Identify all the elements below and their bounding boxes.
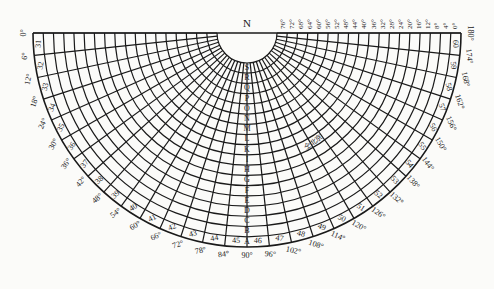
- outer-angle-label: 78°: [194, 245, 207, 256]
- outer-angle-label: 150°: [433, 135, 448, 153]
- top-angle-label: 28°: [388, 19, 396, 29]
- outer-angle-label: 18°: [28, 95, 40, 108]
- outer-angle-label: 72°: [171, 238, 184, 250]
- outer-angle-label: 126°: [370, 205, 388, 221]
- top-angle-label: 0°: [451, 23, 459, 30]
- top-angle-label: 40°: [360, 19, 368, 29]
- ring-letter: B: [244, 226, 249, 235]
- top-angle-label: 68°: [297, 19, 305, 29]
- ring-letter: E: [245, 196, 250, 205]
- outer-angle-label: 180°: [466, 25, 475, 40]
- outer-angle-label: 48°: [90, 191, 104, 205]
- grid-labels: 3132333435363738394041424344454647484950…: [19, 19, 475, 260]
- outer-angle-label: 120°: [350, 218, 368, 233]
- outer-angle-label: 0°: [19, 29, 28, 36]
- ring-letter: A: [244, 237, 250, 246]
- sector-number: 45: [232, 236, 240, 245]
- outer-angle-label: 36°: [59, 157, 73, 171]
- sector-number: 59: [448, 61, 458, 70]
- ring-letter: I: [246, 155, 249, 164]
- sector-number: 47: [275, 233, 284, 243]
- top-angle-label: 36°: [370, 19, 378, 29]
- polar-grid-canvas: 3132333435363738394041424344454647484950…: [0, 0, 494, 289]
- ring-letter: S: [245, 63, 249, 72]
- outer-angle-label: 6°: [20, 52, 30, 60]
- ring-letter: G: [244, 175, 250, 184]
- outer-angle-label: 132°: [388, 190, 405, 207]
- top-angle-label: 12°: [424, 19, 432, 29]
- outer-angle-label: 108°: [307, 238, 324, 251]
- outer-angle-label: 12°: [23, 73, 34, 86]
- sector-number: 32: [35, 61, 45, 70]
- top-angle-label: 60°: [315, 19, 323, 29]
- sector-number: 44: [210, 233, 219, 243]
- outer-angle-label: 174°: [464, 48, 475, 64]
- ring-letter: K: [244, 145, 250, 154]
- ring-letter: Q: [244, 83, 250, 92]
- outer-angle-label: 162°: [453, 93, 466, 110]
- top-angle-label: 16°: [415, 19, 423, 29]
- ring-letter: L: [245, 134, 250, 143]
- ring-letter: N: [244, 114, 250, 123]
- sector-number: 46: [254, 236, 262, 245]
- outer-angle-label: 54°: [108, 206, 122, 220]
- polar-grid-diagram: 3132333435363738394041424344454647484950…: [0, 0, 494, 289]
- top-angle-label: 64°: [306, 19, 314, 29]
- sector-number: 31: [34, 40, 43, 48]
- top-angle-label: 4°: [442, 23, 450, 30]
- north-label: N: [243, 17, 251, 29]
- top-angle-label: 52°: [333, 19, 341, 29]
- ring-letter: H: [244, 165, 250, 174]
- outer-angle-label: 114°: [329, 229, 346, 243]
- outer-angle-label: 60°: [128, 219, 142, 232]
- ring-letter: P: [245, 94, 250, 103]
- ring-arc: [217, 33, 277, 63]
- outer-angle-label: 102°: [285, 244, 302, 256]
- outer-angle-label: 96°: [264, 249, 276, 259]
- top-angle-label: 48°: [342, 19, 350, 29]
- ring-letter: O: [244, 104, 250, 113]
- top-angle-label: 76°: [279, 19, 287, 29]
- ring-letter: M: [243, 124, 250, 133]
- top-angle-label: 44°: [351, 19, 359, 29]
- top-angle-label: 8°: [433, 23, 441, 30]
- outer-angle-label: 144°: [420, 155, 436, 173]
- sector-number: 49: [317, 221, 328, 232]
- ring-letter: C: [244, 216, 249, 225]
- top-angle-label: 56°: [324, 19, 332, 29]
- outer-angle-label: 30°: [47, 137, 60, 151]
- ring-letter: R: [244, 73, 250, 82]
- top-angle-label: 72°: [288, 19, 296, 29]
- outer-angle-label: 156°: [444, 115, 458, 133]
- ring-letter: D: [244, 206, 250, 215]
- sector-number: 33: [40, 82, 51, 92]
- top-angle-label: 20°: [406, 19, 414, 29]
- outer-angle-label: 24°: [36, 116, 49, 130]
- outer-angle-label: 138°: [405, 173, 422, 190]
- sector-number: 48: [296, 228, 306, 239]
- outer-angle-label: 66°: [149, 230, 163, 243]
- outer-angle-label: 84°: [218, 249, 230, 259]
- outer-angle-label: 42°: [74, 175, 88, 189]
- top-angle-label: 32°: [379, 19, 387, 29]
- outer-angle-label: 168°: [460, 71, 472, 88]
- sector-number: 42: [167, 221, 178, 232]
- ring-letter: F: [245, 186, 250, 195]
- sector-number: 60: [451, 40, 460, 48]
- outer-angle-label: 90°: [241, 251, 252, 260]
- top-angle-label: 24°: [397, 19, 405, 29]
